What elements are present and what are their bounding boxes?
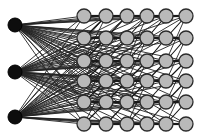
- hidden-node: [77, 95, 91, 109]
- hidden-node: [140, 117, 154, 131]
- hidden-node: [99, 31, 113, 45]
- hidden-node: [99, 95, 113, 109]
- hidden-node: [179, 117, 193, 131]
- hidden-node: [120, 95, 134, 109]
- hidden-node: [159, 54, 173, 68]
- hidden-node: [77, 74, 91, 88]
- input-node: [8, 65, 22, 79]
- hidden-node: [140, 31, 154, 45]
- hidden-node: [99, 9, 113, 23]
- input-layer: [8, 18, 22, 124]
- hidden-node: [140, 9, 154, 23]
- hidden-node: [120, 117, 134, 131]
- hidden-node: [120, 54, 134, 68]
- hidden-node: [77, 54, 91, 68]
- hidden-node: [140, 54, 154, 68]
- hidden-node: [140, 95, 154, 109]
- hidden-node: [140, 74, 154, 88]
- hidden-node: [120, 31, 134, 45]
- hidden-node: [159, 74, 173, 88]
- input-node: [8, 18, 22, 32]
- hidden-node: [179, 31, 193, 45]
- input-node: [8, 110, 22, 124]
- hidden-node: [77, 9, 91, 23]
- connection-edges: [15, 16, 186, 124]
- hidden-node: [179, 54, 193, 68]
- hidden-node: [120, 74, 134, 88]
- hidden-node: [159, 117, 173, 131]
- hidden-node: [99, 74, 113, 88]
- hidden-node: [159, 95, 173, 109]
- hidden-node: [77, 31, 91, 45]
- hidden-node: [179, 95, 193, 109]
- hidden-node: [159, 9, 173, 23]
- hidden-node: [120, 9, 134, 23]
- hidden-node: [179, 9, 193, 23]
- hidden-node: [99, 117, 113, 131]
- hidden-node: [77, 117, 91, 131]
- hidden-node: [99, 54, 113, 68]
- neural-network-diagram: [0, 0, 200, 138]
- hidden-node: [179, 74, 193, 88]
- hidden-node: [159, 31, 173, 45]
